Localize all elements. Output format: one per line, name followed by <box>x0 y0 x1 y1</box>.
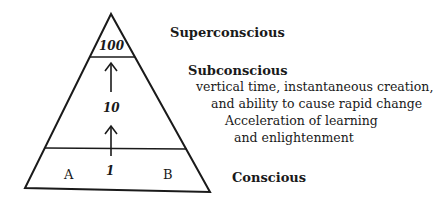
superconscious-value: 100 <box>99 39 124 53</box>
description-line: Acceleration of learning <box>225 113 378 128</box>
arrow-up-icon <box>105 126 117 156</box>
arrow-up-icon <box>105 63 117 92</box>
description-line: and ability to cause rapid change <box>211 96 422 111</box>
description-line: vertical time, instantaneous creation, <box>196 79 433 94</box>
description-line: and enlightenment <box>234 130 354 145</box>
superconscious-label: Superconscious <box>170 25 285 40</box>
conscious-label: Conscious <box>232 170 306 185</box>
conscious-value: 1 <box>106 164 114 178</box>
conscious-divider <box>45 148 187 149</box>
subconscious-value: 10 <box>103 101 120 115</box>
base-label-a: A <box>64 167 73 182</box>
base-label-b: B <box>163 167 173 182</box>
subconscious-label: Subconscious <box>188 63 288 78</box>
